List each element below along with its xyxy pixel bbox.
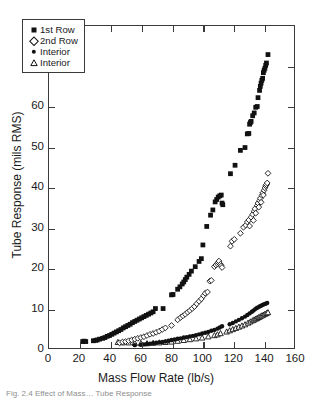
- x-tick-label: 160: [285, 353, 304, 365]
- data-point: [238, 230, 244, 236]
- legend-label: Interior: [40, 57, 70, 68]
- x-axis-tick-top: [203, 26, 204, 32]
- data-point: [210, 208, 215, 213]
- x-axis-title: Mass Flow Rate (lb/s): [0, 371, 312, 385]
- data-point: [208, 213, 213, 218]
- data-point: [233, 163, 238, 168]
- filled-square-icon: [32, 27, 37, 32]
- y-axis-tick-right: [288, 188, 294, 189]
- data-point: [265, 301, 269, 305]
- x-axis-tick: [173, 342, 174, 348]
- y-axis-tick-right: [288, 310, 294, 311]
- plot-area: [48, 25, 295, 349]
- x-axis-tick: [265, 342, 266, 348]
- x-tick-label: 120: [224, 353, 243, 365]
- data-point: [204, 224, 209, 229]
- data-point: [161, 306, 166, 311]
- legend-label: 1st Row: [40, 24, 75, 35]
- x-axis-tick-top: [111, 26, 112, 32]
- legend-label: Interior: [40, 46, 70, 57]
- data-point: [169, 323, 175, 329]
- data-point: [153, 306, 158, 311]
- data-point: [83, 339, 88, 344]
- y-axis-tick-right: [288, 67, 294, 68]
- x-axis-tick: [203, 342, 204, 348]
- y-tick-label: 30: [31, 222, 44, 234]
- data-point: [238, 148, 243, 153]
- legend-symbol: [28, 46, 40, 57]
- y-axis-tick-right: [288, 148, 294, 149]
- y-axis-tick: [49, 229, 55, 230]
- y-tick-label: 10: [31, 303, 44, 315]
- y-axis-tick-right: [288, 269, 294, 270]
- x-axis-tick-top: [265, 26, 266, 32]
- x-axis-tick: [142, 342, 143, 348]
- data-point: [220, 324, 224, 328]
- y-axis-tick: [49, 148, 55, 149]
- data-point: [228, 171, 233, 176]
- x-tick-label: 100: [193, 353, 212, 365]
- data-point: [193, 264, 198, 269]
- y-axis-tick: [49, 269, 55, 270]
- legend-item[interactable]: 1st Row: [28, 24, 78, 35]
- filled-circle-icon: [32, 49, 36, 53]
- data-point: [243, 145, 248, 150]
- legend-symbol: [28, 24, 40, 35]
- data-point: [265, 170, 271, 176]
- data-point: [246, 131, 251, 136]
- data-point: [255, 104, 260, 109]
- data-point: [201, 243, 206, 248]
- data-point: [266, 52, 271, 57]
- data-point: [264, 61, 269, 66]
- x-tick-label: 20: [72, 353, 85, 365]
- x-axis-tick-top: [142, 26, 143, 32]
- open-diamond-icon: [29, 36, 38, 45]
- data-point: [260, 76, 265, 81]
- x-axis-tick-top: [173, 26, 174, 32]
- x-tick-label: 140: [255, 353, 274, 365]
- figure-container: 020406080100120140160 01020304050607080 …: [0, 0, 312, 401]
- y-tick-label: 50: [31, 141, 44, 153]
- legend-label: 2nd Row: [40, 35, 78, 46]
- data-point: [256, 95, 261, 100]
- x-tick-label: 60: [134, 353, 147, 365]
- y-tick-label: 0: [38, 343, 44, 355]
- y-axis-tick: [49, 107, 55, 108]
- series-0: [80, 52, 270, 344]
- legend-item[interactable]: Interior: [28, 57, 78, 68]
- legend: 1st Row2nd RowInteriorInterior: [22, 19, 85, 73]
- figure-caption: Fig. 2.4 Effect of Mass… Tube Response: [6, 389, 306, 398]
- x-axis-tick-top: [234, 26, 235, 32]
- data-point: [249, 119, 254, 124]
- data-point: [171, 292, 176, 297]
- y-axis-tick-right: [288, 107, 294, 108]
- data-point: [252, 111, 257, 116]
- x-axis-tick: [234, 342, 235, 348]
- y-axis-tick: [49, 310, 55, 311]
- y-tick-label: 60: [31, 100, 44, 112]
- data-points-layer: [49, 26, 294, 348]
- y-axis-title: Tube Response (mils RMS): [10, 85, 24, 285]
- x-axis-tick: [111, 342, 112, 348]
- y-axis-tick: [49, 188, 55, 189]
- data-point: [133, 343, 137, 347]
- y-axis-tick-right: [288, 229, 294, 230]
- x-tick-label: 40: [103, 353, 116, 365]
- x-tick-label: 0: [45, 353, 51, 365]
- data-point: [199, 256, 204, 261]
- x-tick-label: 80: [165, 353, 178, 365]
- legend-symbol: [28, 35, 40, 46]
- data-point: [220, 202, 225, 207]
- y-tick-label: 40: [31, 181, 44, 193]
- y-tick-label: 20: [31, 262, 44, 274]
- data-point: [219, 193, 224, 198]
- legend-item[interactable]: 2nd Row: [28, 35, 78, 46]
- data-point: [189, 269, 194, 274]
- legend-item[interactable]: Interior: [28, 46, 78, 57]
- legend-symbol: [28, 57, 40, 68]
- x-axis-tick: [80, 342, 81, 348]
